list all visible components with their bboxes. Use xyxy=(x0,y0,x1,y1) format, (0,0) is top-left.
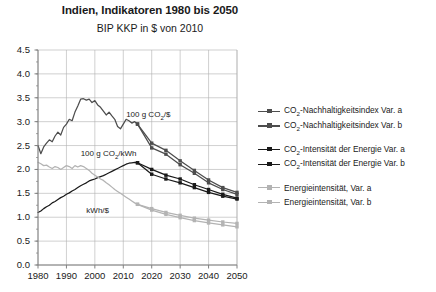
x-tick-label: 2010 xyxy=(108,270,138,281)
annotation-label: kWh/$ xyxy=(86,206,109,215)
annotation-label: 100 g CO2/kWh xyxy=(81,149,137,160)
legend-item[interactable]: CO2-Intensität der Energie Var. a xyxy=(258,142,436,157)
chart-page: Indien, Indikatoren 1980 bis 2050 BIP KK… xyxy=(0,0,436,292)
y-tick-label: 2.0 xyxy=(4,163,30,174)
series-1 xyxy=(136,122,239,194)
y-tick-label: 0.0 xyxy=(4,259,30,270)
legend-item[interactable]: CO2-Intensität der Energie Var. b xyxy=(258,157,436,172)
y-tick-label: 0.5 xyxy=(4,235,30,246)
y-tick-label: 3.5 xyxy=(4,92,30,103)
legend-label: CO2-Intensität der Energie Var. a xyxy=(280,144,405,156)
legend-label: CO2-Nachhaltigkeitsindex Var. a xyxy=(280,105,402,117)
x-tick-label: 2050 xyxy=(222,270,252,281)
x-tick-label: 2000 xyxy=(80,270,110,281)
legend-item[interactable]: Energieintensität, Var. a xyxy=(258,180,436,195)
legend-marker-icon xyxy=(258,144,280,154)
legend-item[interactable]: CO2-Nachhaltigkeitsindex Var. a xyxy=(258,104,436,119)
grid-lines xyxy=(38,50,237,265)
x-tick-label: 2030 xyxy=(165,270,195,281)
y-tick-label: 4.0 xyxy=(4,68,30,79)
chart-legend: CO2-Nachhaltigkeitsindex Var. aCO2-Nachh… xyxy=(258,104,436,210)
x-tick-label: 2020 xyxy=(137,270,167,281)
x-tick-label: 2040 xyxy=(194,270,224,281)
x-tick-label: 1980 xyxy=(23,270,53,281)
y-tick-label: 4.5 xyxy=(4,44,30,55)
legend-label: Energieintensität, Var. b xyxy=(280,197,371,207)
x-tick-label: 1990 xyxy=(51,270,81,281)
legend-marker-icon xyxy=(258,106,280,116)
legend-item[interactable]: CO2-Nachhaltigkeitsindex Var. b xyxy=(258,119,436,134)
series-3 xyxy=(136,161,239,201)
legend-marker-icon xyxy=(258,197,280,207)
y-tick-label: 2.5 xyxy=(4,140,30,151)
series-5 xyxy=(136,203,239,229)
legend-marker-icon xyxy=(258,121,280,131)
annotation-label: 100 g CO2/$ xyxy=(126,110,170,121)
legend-label: CO2-Nachhaltigkeitsindex Var. b xyxy=(280,120,402,132)
y-tick-label: 1.5 xyxy=(4,187,30,198)
legend-marker-icon xyxy=(258,159,280,169)
legend-label: CO2-Intensität der Energie Var. b xyxy=(280,158,405,170)
legend-label: Energieintensität, Var. a xyxy=(280,183,371,193)
legend-marker-icon xyxy=(258,183,280,193)
y-tick-label: 3.0 xyxy=(4,116,30,127)
y-tick-label: 1.0 xyxy=(4,211,30,222)
legend-item[interactable]: Energieintensität, Var. b xyxy=(258,195,436,210)
axis-lines xyxy=(38,50,237,265)
